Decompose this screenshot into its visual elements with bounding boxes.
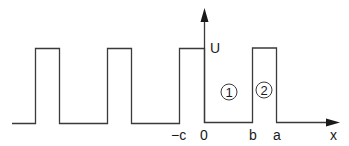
- y-axis-arrow-icon: [201, 8, 209, 22]
- x-axis-label: x: [330, 127, 337, 143]
- tick-label-zero: 0: [200, 127, 208, 143]
- potential-diagram: U x −c 0 b a 1 2: [0, 0, 349, 146]
- tick-label-neg-c: −c: [171, 127, 186, 143]
- y-axis-label: U: [210, 40, 220, 56]
- region-2-label: 2: [260, 83, 267, 98]
- tick-label-a: a: [273, 127, 281, 143]
- region-1-label: 1: [225, 85, 232, 100]
- potential-curve: [12, 48, 277, 124]
- region-2-marker: 2: [256, 82, 272, 98]
- region-1-marker: 1: [221, 84, 237, 100]
- x-axis-arrow-icon: [326, 119, 340, 127]
- tick-label-b: b: [249, 127, 257, 143]
